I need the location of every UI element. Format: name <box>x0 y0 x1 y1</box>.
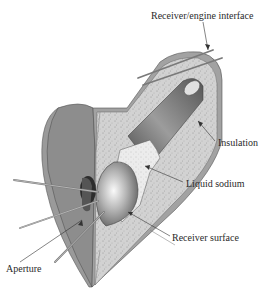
label-aperture: Aperture <box>6 264 42 274</box>
label-receiver-engine-interface: Receiver/engine interface <box>151 11 253 21</box>
receiver-diagram: Receiver/engine interface Insulation Liq… <box>0 0 266 299</box>
label-insulation: Insulation <box>218 138 258 148</box>
receiver-illustration <box>0 0 266 299</box>
label-receiver-surface: Receiver surface <box>172 233 239 243</box>
label-liquid-sodium: Liquid sodium <box>186 179 245 189</box>
